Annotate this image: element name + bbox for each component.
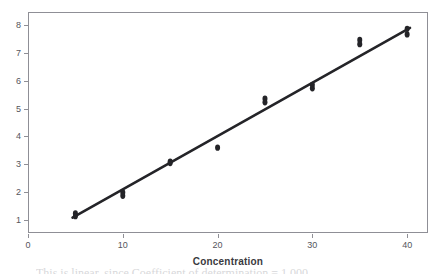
y-tick-label: 3 xyxy=(16,160,21,169)
x-tick-mark xyxy=(123,234,124,238)
y-tick-mark xyxy=(24,220,28,221)
y-tick-label: 5 xyxy=(16,104,21,113)
y-tick-label: 4 xyxy=(16,132,21,141)
figure-caption: This is linear, since Coefficient of det… xyxy=(36,266,308,274)
x-tick-mark xyxy=(312,234,313,238)
x-tick-label: 0 xyxy=(25,241,30,250)
x-tick-label: 20 xyxy=(213,241,223,250)
x-tick-mark xyxy=(28,234,29,238)
y-tick-label: 2 xyxy=(16,188,21,197)
x-tick-mark xyxy=(218,234,219,238)
y-tick-mark xyxy=(24,164,28,165)
x-tick-mark xyxy=(407,234,408,238)
x-tick-label: 30 xyxy=(307,241,317,250)
y-tick-label: 7 xyxy=(16,48,21,57)
plot-frame xyxy=(28,12,428,233)
y-tick-label: 1 xyxy=(16,216,21,225)
y-tick-mark xyxy=(24,192,28,193)
scatter-plot-figure: 12345678 010203040 Concentration This is… xyxy=(0,0,445,274)
x-tick-label: 40 xyxy=(402,241,412,250)
y-tick-mark xyxy=(24,53,28,54)
y-tick-mark xyxy=(24,136,28,137)
y-tick-mark xyxy=(24,25,28,26)
x-tick-label: 10 xyxy=(118,241,128,250)
y-tick-mark xyxy=(24,109,28,110)
y-tick-label: 6 xyxy=(16,76,21,85)
y-tick-mark xyxy=(24,81,28,82)
y-tick-label: 8 xyxy=(16,20,21,29)
